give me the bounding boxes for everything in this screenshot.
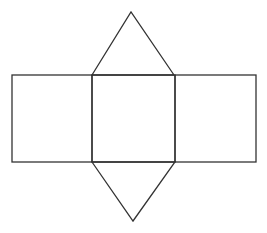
top-triangle-face (92, 12, 174, 75)
center-rectangle-face (92, 75, 175, 162)
left-rectangle-face (12, 75, 92, 162)
triangular-prism-net (0, 0, 267, 233)
right-rectangle-face (175, 75, 256, 162)
bottom-triangle-face (92, 162, 175, 221)
